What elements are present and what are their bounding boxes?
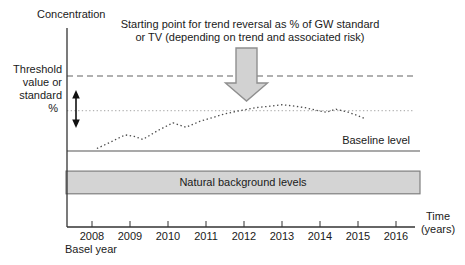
x-tick-label: 2012 [225, 230, 263, 242]
baseline-level-label: Baseline level [328, 134, 410, 147]
x-tick-label: 2011 [187, 230, 225, 242]
percent-label: % [38, 102, 58, 115]
annotation-down-arrow [226, 48, 268, 101]
figure-canvas: Concentration Starting point for trend r… [0, 0, 465, 265]
x-tick-label: 2009 [111, 230, 149, 242]
x-tick-label: 2013 [263, 230, 301, 242]
x-tick-label: 2015 [339, 230, 377, 242]
natural-background-label: Natural background levels [66, 176, 420, 189]
percent-range-arrow [72, 90, 80, 128]
x-axis-title: Time (years) [412, 210, 464, 236]
y-axis-title: Concentration [37, 8, 106, 21]
threshold-label: Threshold value or standard [6, 63, 62, 102]
x-axis-ticks [92, 221, 396, 227]
x-tick-label: 2014 [301, 230, 339, 242]
basel-year-label: Basel year [65, 243, 117, 256]
x-tick-label: 2016 [377, 230, 415, 242]
x-tick-label: 2008 [73, 230, 111, 242]
trend-reversal-annotation: Starting point for trend reversal as % o… [100, 18, 400, 44]
x-tick-label: 2010 [149, 230, 187, 242]
